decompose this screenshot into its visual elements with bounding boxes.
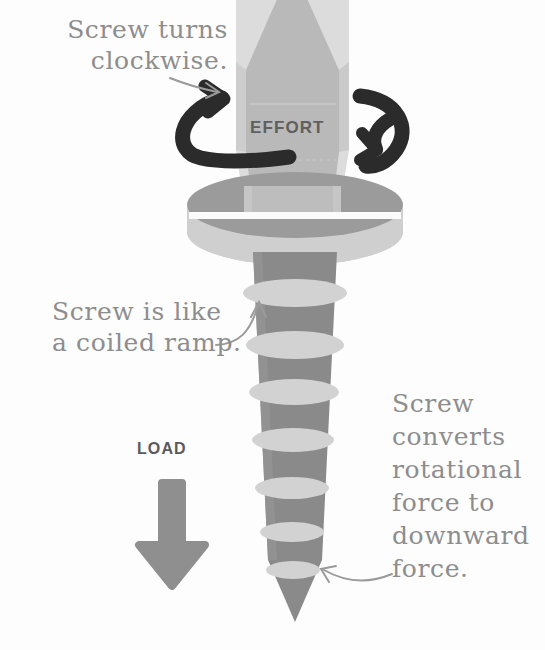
handle-left-bevel: [236, 62, 246, 152]
thread-ring: [249, 379, 339, 405]
annotation-converts-force: Screw converts rotational force to downw…: [392, 387, 542, 585]
thread-ring: [255, 477, 329, 499]
collar-highlight-stripe: [189, 212, 401, 219]
thread-ring: [252, 428, 334, 452]
load-arrow-shape: [139, 483, 205, 586]
screw-head-collar: [187, 172, 403, 265]
label-load: LOAD: [137, 440, 187, 458]
handle-right-bevel: [339, 62, 349, 152]
annotation-screw-turns-clockwise: Screw turns clockwise.: [18, 14, 228, 76]
load-arrow: [139, 483, 205, 586]
annotation-coiled-ramp: Screw is like a coiled ramp.: [52, 296, 282, 358]
thread-ring: [260, 522, 324, 542]
leader-converts: [324, 570, 392, 580]
handle-base-front: [252, 186, 333, 212]
diagram-canvas: Screw turns clockwise. Screw is like a c…: [0, 0, 545, 650]
label-effort: EFFORT: [250, 118, 325, 138]
thread-ring: [266, 561, 320, 579]
